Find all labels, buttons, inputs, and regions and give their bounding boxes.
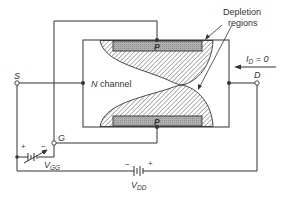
contact-drain [227,81,231,85]
label-source: S [14,71,20,81]
label-vdd-plus: + [148,159,153,168]
arrowhead-icon [205,34,210,40]
label-vdd-minus: − [125,160,130,169]
label-vgg-plus: + [21,142,26,151]
label-gate: G [58,133,65,143]
label-p-bottom: P [154,117,160,127]
current-arrow-icon [234,65,276,70]
label-drain: D [254,70,261,80]
label-id: ID = 0 [246,54,268,65]
jfet-diagram: Depletion regions N channel P P S D G ID… [0,0,286,201]
battery-vdd-icon [134,166,143,176]
terminal-source [15,81,19,85]
label-p-top: P [154,42,160,52]
terminal-gate [52,141,56,145]
label-depletion: Depletion [223,7,261,17]
label-regions: regions [228,18,258,28]
label-vgg-minus: − [41,142,46,151]
terminal-drain [255,81,259,85]
junction-dot [15,155,19,159]
label-n-channel: N channel [91,79,132,89]
label-vgg: VGG [44,160,60,171]
label-vdd: VDD [131,180,147,191]
contact-source [81,81,85,85]
